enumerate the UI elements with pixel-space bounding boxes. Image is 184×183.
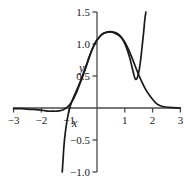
x-tick-label: −3: [8, 115, 20, 126]
y-tick-label: −0.5: [70, 135, 90, 146]
y-tick-label: 1.0: [76, 39, 90, 50]
x-tick-label: 3: [178, 115, 184, 126]
y-tick-label: −1.0: [70, 167, 90, 178]
x-tick-label: −2: [36, 115, 48, 126]
x-tick-label: 1: [122, 115, 128, 126]
y-tick-label: 1.5: [76, 7, 90, 18]
plot-canvas: [0, 0, 184, 183]
function-plot-figure: −3−2−1123 1.51.00.5−0.5−1.0 y x: [0, 0, 184, 183]
x-axis-label: x: [72, 117, 77, 129]
y-axis-label: y: [79, 62, 84, 74]
x-tick-label: 2: [150, 115, 156, 126]
y-tick-marks: [93, 12, 98, 172]
axes-group: [13, 12, 180, 172]
curve-cubic-curve: [62, 12, 146, 172]
